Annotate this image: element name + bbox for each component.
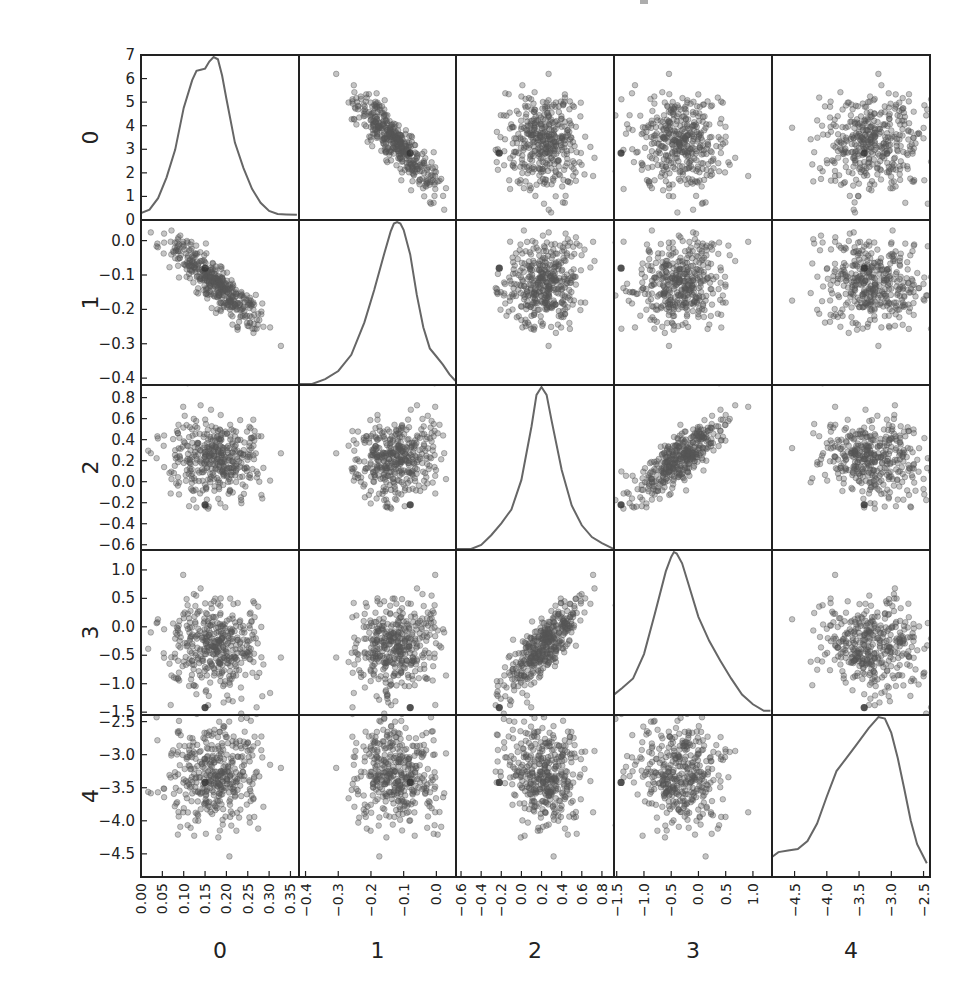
- y-axis-label-4: 4: [78, 789, 103, 803]
- x-tick-label: 0.25: [240, 883, 256, 914]
- y-tick-label: 3: [125, 140, 135, 158]
- outlier-point: [496, 779, 503, 786]
- y-axis-label-0: 0: [78, 131, 103, 145]
- kde-curve-3: [614, 552, 770, 711]
- scatter-panel-2-vs-1: [333, 380, 467, 511]
- x-tick-label: −0.1: [396, 883, 412, 917]
- x-axis-label-1: 1: [371, 938, 385, 963]
- outlier-point: [617, 779, 624, 786]
- x-tick-label: −0.3: [330, 883, 346, 917]
- x-tick-label: 0.35: [282, 883, 298, 914]
- x-tick-label: 0.8: [594, 883, 610, 905]
- x-tick-label: 0.20: [218, 883, 234, 914]
- x-tick-label: −3.0: [883, 883, 899, 917]
- x-tick-label: −1.5: [609, 883, 625, 917]
- x-axis-label-3: 3: [686, 938, 700, 963]
- y-tick-label: 0.0: [111, 473, 135, 491]
- scatter-panel-3-vs-1: [333, 572, 467, 716]
- scatter-points-layer: [145, 71, 953, 889]
- y-tick-label: −3.0: [99, 746, 135, 764]
- x-tick-label: 0.4: [554, 883, 570, 905]
- kde-curve-0: [141, 57, 297, 215]
- y-tick-label: −0.6: [99, 536, 135, 554]
- outlier-point: [407, 150, 414, 157]
- scatter-panel-3-vs-0: [145, 572, 283, 716]
- scatter-panel-1-vs-0: [145, 209, 283, 349]
- y-tick-label: 0.0: [111, 618, 135, 636]
- y-axis-label-2: 2: [78, 461, 103, 475]
- x-tick-label: 0.2: [534, 883, 550, 905]
- kde-curve-4: [772, 717, 927, 863]
- outlier-point: [496, 150, 503, 157]
- y-tick-label: −0.2: [99, 494, 135, 512]
- x-tick-label: −0.4: [473, 883, 489, 917]
- y-tick-label: −0.5: [99, 646, 135, 664]
- scatter-panel-1-vs-2: [493, 209, 619, 349]
- y-axis-label-3: 3: [78, 626, 103, 640]
- scatter-panel-0-vs-3: [613, 71, 751, 215]
- y-tick-label: −4.5: [99, 845, 135, 863]
- panel-frames-layer: [141, 55, 930, 877]
- kde-curve-1: [299, 222, 455, 384]
- scatter-panel-2-vs-3: [613, 380, 751, 511]
- y-tick-label: 6: [125, 70, 135, 88]
- x-tick-label: 0.15: [197, 883, 213, 914]
- y-tick-label: 0.0: [111, 232, 135, 250]
- y-tick-label: 5: [125, 93, 135, 111]
- scatter-panel-3-vs-2: [493, 572, 619, 716]
- y-tick-label: 0.8: [111, 389, 135, 407]
- y-tick-label: −2.5: [99, 713, 135, 731]
- outlier-point: [861, 501, 868, 508]
- x-tick-label: −2.5: [916, 883, 932, 917]
- outlier-point: [407, 779, 414, 786]
- y-tick-label: −0.4: [99, 369, 135, 387]
- scatter-panel-1-vs-3: [613, 209, 751, 349]
- scatter-panel-3-vs-4: [761, 572, 954, 716]
- outlier-point: [861, 150, 868, 157]
- scatter-panel-0-vs-4: [761, 71, 954, 215]
- x-tick-label: −0.4: [298, 883, 314, 917]
- x-tick-label: 0.30: [261, 883, 277, 914]
- outlier-point: [407, 501, 414, 508]
- x-tick-label: 0.0: [513, 883, 529, 905]
- x-tick-label: −4.5: [787, 883, 803, 917]
- outlier-point: [496, 265, 503, 272]
- y-tick-label: 1.0: [111, 561, 135, 579]
- x-tick-label: 0.6: [574, 883, 590, 905]
- x-tick-label: 0.0: [428, 883, 444, 905]
- y-tick-label: 4: [125, 117, 135, 135]
- panel-frame-1-1: [299, 220, 456, 385]
- x-tick-label: −1.0: [636, 883, 652, 917]
- panel-frame-3-3: [614, 550, 772, 715]
- panel-frame-0-0: [141, 55, 299, 220]
- y-tick-label: 7: [125, 46, 135, 64]
- scatter-panel-0-vs-2: [493, 71, 619, 215]
- x-tick-label: −4.0: [819, 883, 835, 917]
- x-tick-label: −0.5: [663, 883, 679, 917]
- y-tick-label: 0.4: [111, 431, 135, 449]
- x-axis-label-2: 2: [528, 938, 542, 963]
- x-tick-label: 0.05: [154, 883, 170, 914]
- scatter-panel-4-vs-1: [333, 691, 467, 888]
- y-tick-label: −0.4: [99, 515, 135, 533]
- x-tick-label: 0.0: [690, 883, 706, 905]
- outlier-point: [617, 265, 624, 272]
- outlier-point: [201, 501, 208, 508]
- outlier-point: [617, 501, 624, 508]
- kde-curve-2: [456, 387, 614, 549]
- y-tick-label: −4.0: [99, 812, 135, 830]
- outlier-point: [861, 704, 868, 711]
- y-tick-label: 2: [125, 164, 135, 182]
- x-tick-label: 0.00: [133, 883, 149, 914]
- scatter-panel-2-vs-4: [761, 380, 954, 511]
- scatter-panel-4-vs-2: [493, 691, 619, 888]
- y-tick-label: 1: [125, 187, 135, 205]
- y-tick-label: 0.6: [111, 410, 135, 428]
- y-tick-label: −0.3: [99, 335, 135, 353]
- x-tick-label: 0.5: [718, 883, 734, 905]
- x-axis-label-4: 4: [844, 938, 858, 963]
- outlier-point: [407, 704, 414, 711]
- x-tick-label: 1.0: [745, 883, 761, 905]
- y-tick-label: −0.1: [99, 266, 135, 284]
- x-tick-label: 0.10: [176, 883, 192, 914]
